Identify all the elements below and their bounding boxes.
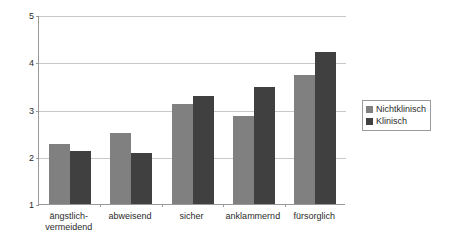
y-tick-mark: [36, 111, 39, 112]
bar[interactable]: [49, 144, 70, 204]
bar-group: [233, 16, 275, 204]
y-axis-tick-label: 1: [29, 201, 34, 210]
bar-group: [172, 16, 214, 204]
y-tick-mark: [36, 63, 39, 64]
legend-label-nichtklinisch: Nichtklinisch: [376, 105, 426, 114]
y-tick-mark: [36, 158, 39, 159]
bar-group: [49, 16, 91, 204]
y-axis-tick-label: 5: [29, 12, 34, 21]
x-tick-mark: [223, 204, 224, 207]
x-axis-category-label: fürsorglich: [276, 211, 353, 222]
bar[interactable]: [70, 151, 91, 204]
legend-item[interactable]: Klinisch: [366, 115, 426, 127]
bar[interactable]: [172, 104, 193, 204]
y-axis-tick-label: 4: [29, 59, 34, 68]
y-tick-mark: [36, 16, 39, 17]
x-tick-mark: [100, 204, 101, 207]
y-axis-tick-label: 2: [29, 153, 34, 162]
y-axis-tick-label: 3: [29, 106, 34, 115]
x-tick-mark: [285, 204, 286, 207]
bar-group: [110, 16, 152, 204]
legend: Nichtklinisch Klinisch: [362, 100, 431, 131]
bar[interactable]: [131, 153, 152, 205]
bar[interactable]: [193, 96, 214, 204]
bar-chart: 12345 ängstlich- vermeidendabweisendsich…: [0, 0, 458, 248]
bar-group: [294, 16, 336, 204]
x-tick-mark: [162, 204, 163, 207]
legend-swatch-nichtklinisch: [366, 106, 373, 113]
legend-label-klinisch: Klinisch: [376, 117, 407, 126]
legend-swatch-klinisch: [366, 118, 373, 125]
y-tick-mark: [36, 205, 39, 206]
legend-item[interactable]: Nichtklinisch: [366, 103, 426, 115]
bar[interactable]: [294, 75, 315, 204]
bar[interactable]: [315, 52, 336, 204]
bar[interactable]: [254, 87, 275, 204]
bar[interactable]: [233, 116, 254, 204]
plot-area: 12345: [38, 16, 345, 205]
bar[interactable]: [110, 133, 131, 204]
